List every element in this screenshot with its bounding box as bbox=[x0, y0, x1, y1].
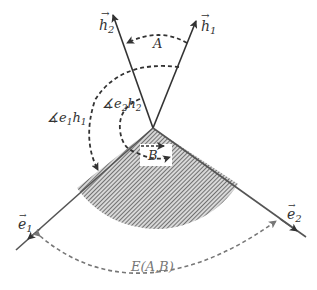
cone-region-shaded bbox=[77, 128, 238, 229]
label-angle-b: B bbox=[147, 148, 158, 163]
label-h1-vecbar: → bbox=[201, 10, 210, 21]
label-e2-vecbar: → bbox=[288, 200, 296, 210]
label-h2: h2 bbox=[99, 17, 114, 35]
label-angle-e1h1: ∡e1h1 bbox=[47, 110, 87, 127]
label-h1-arrowbar: → bbox=[101, 8, 110, 19]
label-angle-a: A bbox=[152, 36, 162, 51]
label-angle-e2h2: ∡e2h2 bbox=[102, 96, 142, 113]
label-e1-vecbar: → bbox=[19, 210, 27, 220]
vector-h2 bbox=[113, 15, 153, 128]
vector-angle-diagram: h2 → h1 → A ∡e1h1 ∡e2h2 B e1 → e2 → E(A,… bbox=[0, 0, 317, 290]
label-angle-e-ab: E(A,B) bbox=[130, 259, 174, 274]
